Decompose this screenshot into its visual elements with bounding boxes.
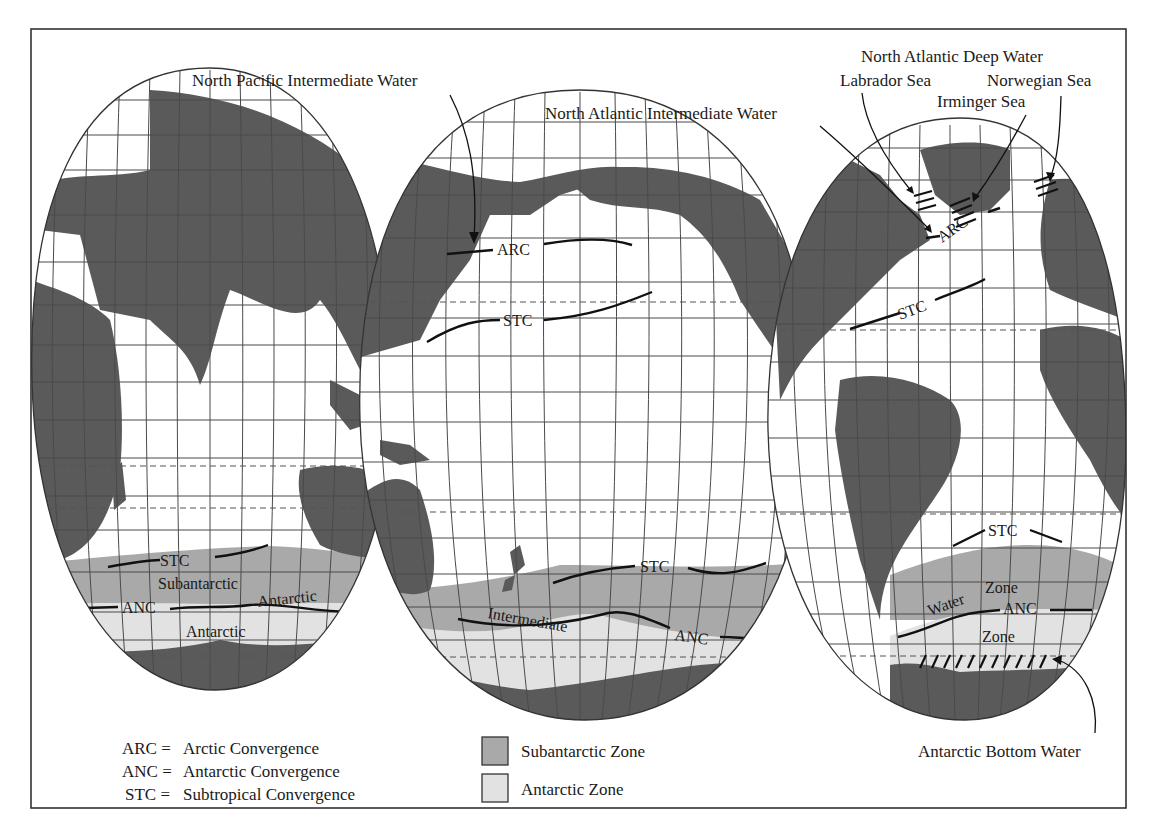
callout-north-atlantic-deep-water: North Atlantic Deep Water: [861, 47, 1043, 66]
swatch-antarctic-zone: [482, 774, 508, 802]
legend-meaning-arc: Arctic Convergence: [183, 739, 319, 758]
left-lobe: STC Subantarctic ANC Antarctic Antarctic: [0, 60, 400, 700]
callout-north-atlantic-intermediate-water: North Atlantic Intermediate Water: [545, 104, 777, 123]
label-stc-middle-north: STC: [503, 312, 532, 329]
label-antarctic-left: Antarctic: [186, 623, 246, 640]
legend-abbr-stc: STC =: [125, 785, 170, 804]
right-lobe: ARC STC STC Zone Water ANC Zone: [760, 110, 1140, 730]
label-zone-upper-right: Zone: [985, 579, 1018, 596]
middle-lobe: ARC STC STC Intermediate ANC: [350, 80, 820, 730]
ocean-convergence-map: STC Subantarctic ANC Antarctic Antarctic: [0, 0, 1164, 829]
abbreviation-legend: ARC = Arctic Convergence ANC = Antarctic…: [122, 739, 355, 804]
legend-meaning-anc: Antarctic Convergence: [183, 762, 340, 781]
legend-abbr-arc: ARC =: [122, 739, 171, 758]
legend-subantarctic-zone: Subantarctic Zone: [521, 742, 645, 761]
swatch-subantarctic-zone: [482, 737, 508, 765]
antarctica-right-land: [890, 660, 1130, 730]
callout-norwegian-sea: Norwegian Sea: [987, 71, 1092, 90]
label-stc-middle-south: STC: [640, 558, 669, 575]
legend-meaning-stc: Subtropical Convergence: [183, 785, 355, 804]
legend: ARC = Arctic Convergence ANC = Antarctic…: [122, 737, 645, 804]
legend-antarctic-zone: Antarctic Zone: [521, 780, 623, 799]
label-zone-lower-right: Zone: [982, 628, 1015, 645]
label-anc-left: ANC: [122, 599, 156, 616]
label-stc-right-south: STC: [988, 522, 1017, 539]
label-subantarctic-left: Subantarctic: [158, 575, 238, 592]
callout-irminger-sea: Irminger Sea: [937, 92, 1026, 111]
label-arc-middle: ARC: [497, 241, 530, 258]
callout-labrador-sea: Labrador Sea: [840, 71, 932, 90]
callout-antarctic-bottom-water: Antarctic Bottom Water: [918, 742, 1081, 761]
zone-legend: Subantarctic Zone Antarctic Zone: [482, 737, 645, 802]
label-anc-right: ANC: [1003, 600, 1037, 617]
label-stc-left: STC: [160, 552, 189, 569]
legend-abbr-anc: ANC =: [122, 762, 172, 781]
callout-north-pacific-intermediate-water: North Pacific Intermediate Water: [192, 71, 418, 90]
